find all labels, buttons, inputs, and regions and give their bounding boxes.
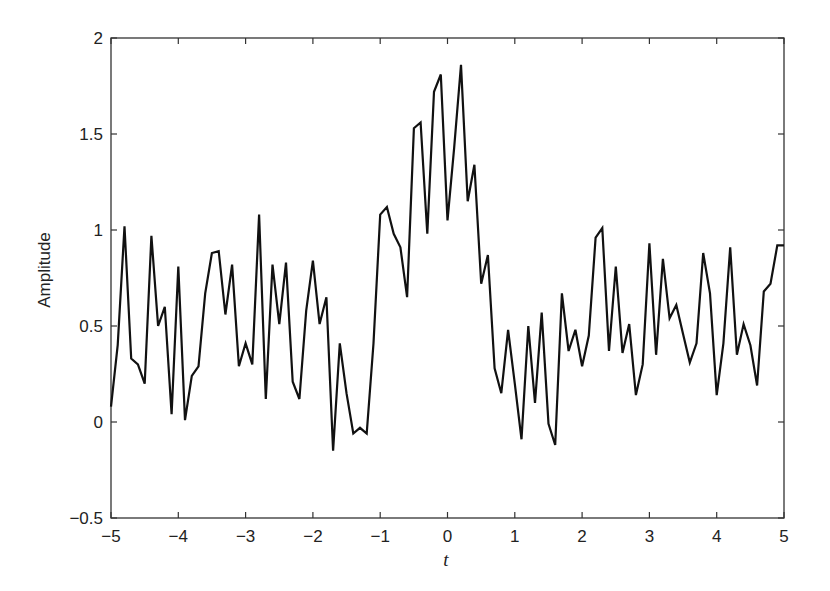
y-tick-label: 0 [94,413,103,432]
x-tick-label: 2 [577,527,586,546]
x-tick-labels: −5−4−3−2−1012345 [101,527,788,546]
x-axis-label: t [443,549,449,570]
x-tick-label: 0 [443,527,452,546]
signal-line [111,65,784,451]
y-tick-label: 1.5 [79,125,103,144]
y-tick-label: 0.5 [79,317,103,336]
axis-ticks [111,38,784,518]
x-tick-label: 4 [712,527,721,546]
x-tick-label: 3 [645,527,654,546]
x-tick-label: −5 [101,527,120,546]
y-axis-label: Amplitude [35,232,54,308]
y-tick-label: −0.5 [69,509,103,528]
x-tick-label: 5 [779,527,788,546]
y-tick-labels: −0.500.511.52 [69,29,103,528]
line-chart: −5−4−3−2−1012345 −0.500.511.52 t Amplitu… [0,0,830,591]
plot-frame [111,38,784,518]
y-tick-label: 2 [94,29,103,48]
x-tick-label: −2 [303,527,322,546]
x-tick-label: −1 [371,527,390,546]
x-tick-label: −4 [169,527,188,546]
x-tick-label: −3 [236,527,255,546]
y-tick-label: 1 [94,221,103,240]
plot-area [111,38,784,518]
x-tick-label: 1 [510,527,519,546]
